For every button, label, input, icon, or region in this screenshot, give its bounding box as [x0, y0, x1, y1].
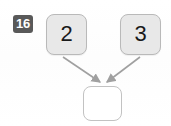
result-node[interactable] — [83, 86, 122, 121]
operand-right-node[interactable]: 3 — [120, 14, 161, 55]
diagram-canvas: 16 2 3 — [0, 0, 171, 126]
operand-left-node[interactable]: 2 — [46, 14, 87, 55]
arrow-right-to-result — [107, 57, 140, 82]
arrow-left-to-result — [63, 57, 100, 82]
step-number-badge: 16 — [13, 15, 33, 33]
